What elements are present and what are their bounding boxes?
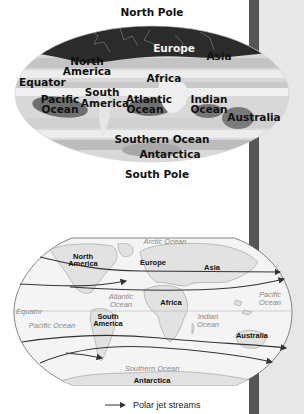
indian-ocean-label-2: Ocean — [197, 320, 219, 329]
antarctica-label: Antarctica — [134, 376, 172, 385]
africa-label: Africa — [160, 298, 182, 307]
arctic-ocean-label: Arctic Ocean — [143, 237, 187, 246]
pacific-ocean-east-label-2: Ocean — [259, 298, 281, 307]
equator-label: Equator — [16, 307, 43, 316]
pacific-ocean-west-label: Pacific Ocean — [29, 321, 75, 330]
asia-label: Asia — [204, 263, 221, 272]
europe-label: Europe — [140, 258, 166, 267]
bottom-jet-stream-map: Arctic Ocean North America Europe Asia A… — [0, 0, 304, 414]
southern-ocean-label: Southern Ocean — [125, 364, 180, 373]
legend: Polar jet streams — [105, 398, 201, 412]
north-america-label-2: America — [68, 259, 98, 268]
atlantic-ocean-label-2: Ocean — [110, 300, 132, 309]
arrow-right-icon — [105, 401, 127, 409]
australia-label: Australia — [236, 331, 269, 340]
legend-label: Polar jet streams — [133, 400, 201, 410]
south-america-label-2: America — [93, 319, 123, 328]
